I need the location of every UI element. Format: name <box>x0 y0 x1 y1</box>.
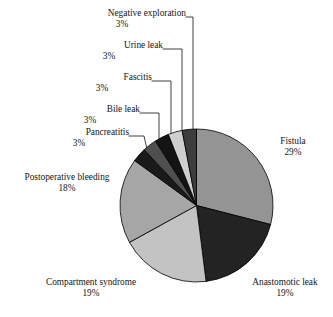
pie-chart-canvas <box>0 0 333 317</box>
slice-label-negative-exploration-name: Negative exploration <box>58 8 186 19</box>
slice-label-compartment-syndrome: Compartment syndrome 19% <box>26 277 156 299</box>
slice-label-anastomotic-leak-name: Anastomotic leak <box>241 277 329 288</box>
slice-label-postoperative-bleeding-percent: 18% <box>8 183 126 194</box>
slice-label-compartment-syndrome-percent: 19% <box>26 288 156 299</box>
slice-label-anastomotic-leak: Anastomotic leak 19% <box>241 277 329 299</box>
slice-label-fistula-percent: 29% <box>265 147 321 158</box>
slice-label-fascitis: Fascitis 3% <box>52 72 152 94</box>
slice-label-urine-leak-name: Urine leak <box>55 40 163 51</box>
slice-label-negative-exploration-percent: 3% <box>58 19 186 30</box>
slice-label-compartment-syndrome-name: Compartment syndrome <box>26 277 156 288</box>
slice-label-bile-leak: Bile leak 3% <box>40 104 140 126</box>
slice-label-fistula: Fistula 29% <box>265 136 321 158</box>
slice-label-negative-exploration: Negative exploration 3% <box>58 8 186 30</box>
slice-label-postoperative-bleeding: Postoperative bleeding 18% <box>8 172 126 194</box>
slice-label-pancreatitis-name: Pancreatitis <box>29 127 129 138</box>
pie-chart-figure: Negative exploration 3% Urine leak 3% Fa… <box>0 0 333 317</box>
leader-line-negative-exploration <box>186 17 193 143</box>
slice-label-postoperative-bleeding-name: Postoperative bleeding <box>8 172 126 183</box>
slice-label-pancreatitis: Pancreatitis 3% <box>29 127 129 149</box>
slice-label-urine-leak-percent: 3% <box>55 51 163 62</box>
slice-label-fascitis-name: Fascitis <box>52 72 152 83</box>
slice-label-fistula-name: Fistula <box>265 136 321 147</box>
slice-label-bile-leak-name: Bile leak <box>40 104 140 115</box>
slice-label-bile-leak-percent: 3% <box>40 115 140 126</box>
leader-line-urine-leak <box>163 49 182 144</box>
slice-label-pancreatitis-percent: 3% <box>29 138 129 149</box>
slice-label-fascitis-percent: 3% <box>52 83 152 94</box>
slice-label-anastomotic-leak-percent: 19% <box>241 288 329 299</box>
slice-label-urine-leak: Urine leak 3% <box>55 40 163 62</box>
pie-slices-group <box>120 129 273 282</box>
